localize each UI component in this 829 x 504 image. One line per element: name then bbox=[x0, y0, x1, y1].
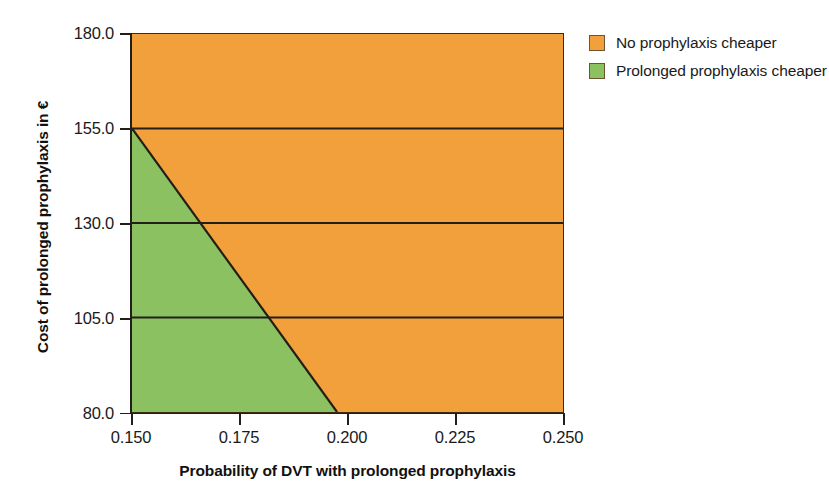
y-tick-mark-180 bbox=[120, 33, 131, 35]
y-tick-mark-80 bbox=[120, 413, 131, 415]
chart-figure: 180.0 155.0 130.0 105.0 80.0 0.150 0.175… bbox=[0, 0, 829, 504]
y-tick-label-180: 180.0 bbox=[42, 24, 114, 43]
legend-swatch-green bbox=[589, 63, 605, 79]
x-tick-label-0250: 0.250 bbox=[518, 428, 608, 447]
x-tick-label-0200: 0.200 bbox=[302, 428, 392, 447]
y-tick-label-130: 130.0 bbox=[42, 214, 114, 233]
y-axis-title: Cost of prolonged prophylaxis in € bbox=[34, 32, 52, 422]
x-tick-label-0175: 0.175 bbox=[194, 428, 284, 447]
x-axis-title: Probability of DVT with prolonged prophy… bbox=[131, 462, 564, 480]
y-tick-mark-155 bbox=[120, 128, 131, 130]
x-tick-mark-0150 bbox=[131, 414, 133, 425]
y-tick-label-105: 105.0 bbox=[42, 309, 114, 328]
x-tick-mark-0175 bbox=[239, 414, 241, 425]
y-tick-mark-130 bbox=[120, 223, 131, 225]
x-tick-mark-0225 bbox=[455, 414, 457, 425]
region-svg bbox=[132, 34, 563, 412]
x-tick-mark-0250 bbox=[563, 414, 565, 425]
legend: No prophylaxis cheaper Prolonged prophyl… bbox=[589, 29, 827, 85]
y-tick-label-80: 80.0 bbox=[42, 404, 114, 423]
x-tick-label-0150: 0.150 bbox=[86, 428, 176, 447]
legend-item-no-prophylaxis-cheaper: No prophylaxis cheaper bbox=[589, 29, 827, 57]
legend-swatch-orange bbox=[589, 35, 605, 51]
y-tick-mark-105 bbox=[120, 318, 131, 320]
y-tick-label-155: 155.0 bbox=[42, 119, 114, 138]
x-tick-label-0225: 0.225 bbox=[410, 428, 500, 447]
legend-label-prolonged-prophylaxis-cheaper: Prolonged prophylaxis cheaper bbox=[616, 62, 827, 80]
plot-area bbox=[131, 33, 564, 413]
x-tick-mark-0200 bbox=[347, 414, 349, 425]
legend-item-prolonged-prophylaxis-cheaper: Prolonged prophylaxis cheaper bbox=[589, 57, 827, 85]
x-axis-line bbox=[120, 413, 565, 415]
legend-label-no-prophylaxis-cheaper: No prophylaxis cheaper bbox=[616, 34, 777, 52]
